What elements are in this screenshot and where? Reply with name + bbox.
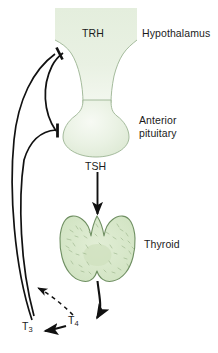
t4-feedback-dashed bbox=[38, 288, 73, 315]
label-trh: TRH bbox=[82, 27, 104, 40]
negative-feedback-to-pituitary bbox=[21, 124, 58, 317]
label-t4: T4 bbox=[68, 314, 79, 327]
feedback-inner-branch bbox=[45, 53, 63, 131]
thyroid-output-arrow bbox=[97, 281, 100, 318]
label-hypothalamus: Hypothalamus bbox=[142, 27, 210, 40]
hypothalamus-shape bbox=[55, 8, 137, 103]
label-anterior-pituitary: Anterior pituitary bbox=[139, 114, 177, 139]
anterior-pituitary-shape bbox=[63, 100, 129, 157]
diagram-graphics bbox=[0, 0, 218, 353]
thyroid-shape bbox=[60, 216, 135, 281]
t4-to-t3-conversion-arrow bbox=[45, 326, 66, 331]
label-t4-subscript: 4 bbox=[75, 319, 79, 328]
hpt-axis-diagram: TRH Hypothalamus Anterior pituitary TSH … bbox=[0, 0, 218, 353]
label-tsh: TSH bbox=[85, 160, 106, 173]
label-t3-subscript: 3 bbox=[29, 325, 33, 334]
label-t3: T3 bbox=[22, 320, 33, 333]
negative-feedback-to-hypothalamus bbox=[12, 48, 62, 321]
label-thyroid: Thyroid bbox=[144, 238, 180, 251]
